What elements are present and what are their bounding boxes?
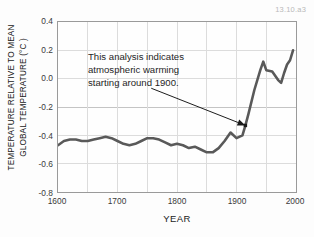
y-tick-label: -0.4 xyxy=(13,131,53,141)
plot-area xyxy=(57,21,297,193)
y-tick-label: -0.6 xyxy=(13,159,53,169)
x-tick-label: 1900 xyxy=(228,196,247,206)
annotation-leader-line xyxy=(58,22,296,192)
y-tick-label: -0.2 xyxy=(13,102,53,112)
y-tick-label: 0.0 xyxy=(13,73,53,83)
annotation-line1: This analysis indicates xyxy=(88,50,218,63)
annotation-line3: starting around 1900. xyxy=(88,76,218,89)
x-tick-label: 1800 xyxy=(168,196,187,206)
x-tick-label: 1600 xyxy=(48,196,67,206)
x-axis-title: YEAR xyxy=(57,213,297,224)
y-tick-label: 0.2 xyxy=(13,45,53,55)
annotation-line2: atmospheric warming xyxy=(88,63,218,76)
y-tick-label: 0.4 xyxy=(13,16,53,26)
figure-container: 13.10.a3 TEMPERATURE RELATIVE TO MEAN GL… xyxy=(0,0,314,237)
x-tick-label: 2000 xyxy=(286,196,305,206)
x-tick-label: 1700 xyxy=(108,196,127,206)
chart-annotation: This analysis indicates atmospheric warm… xyxy=(88,50,218,90)
figure-id-label: 13.10.a3 xyxy=(275,5,306,14)
